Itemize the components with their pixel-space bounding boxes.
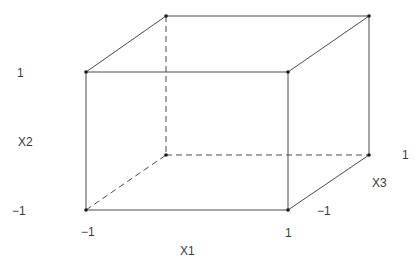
x1-high-tick-label: 1 [285, 226, 292, 240]
vertex-back-top-right [367, 14, 371, 18]
vertex-front-top-right [286, 70, 290, 74]
x2-high-tick-label: 1 [17, 66, 24, 80]
vertex-front-top-left [84, 70, 88, 74]
cube-diagram: 1 X2 −1 −1 1 X1 −1 X3 1 [0, 0, 420, 271]
x3-axis-label: X3 [372, 176, 387, 190]
vertex-back-top-left [164, 14, 168, 18]
vertex-front-bottom-left [84, 208, 88, 212]
x2-low-tick-label: −1 [12, 204, 26, 218]
visible-edge-front-top-left-to-back-top-left [86, 16, 166, 72]
vertex-front-bottom-right [286, 208, 290, 212]
visible-edge-front-top-right-to-back-top-right [288, 16, 369, 72]
x1-low-tick-label: −1 [81, 225, 95, 239]
cube-edges [86, 16, 369, 210]
x3-high-tick-label: 1 [402, 148, 409, 162]
x3-low-tick-label: −1 [317, 204, 331, 218]
vertex-back-bottom-right [367, 153, 371, 157]
cube-vertices [84, 14, 371, 212]
visible-edge-front-bottom-right-to-back-bottom-right [288, 155, 369, 210]
x1-axis-label: X1 [180, 244, 195, 258]
x2-axis-label: X2 [18, 135, 33, 149]
vertex-back-bottom-left [164, 153, 168, 157]
hidden-edge-front-bottom-left-to-back-bottom-left [86, 155, 166, 210]
axis-labels: 1 X2 −1 −1 1 X1 −1 X3 1 [12, 66, 409, 258]
